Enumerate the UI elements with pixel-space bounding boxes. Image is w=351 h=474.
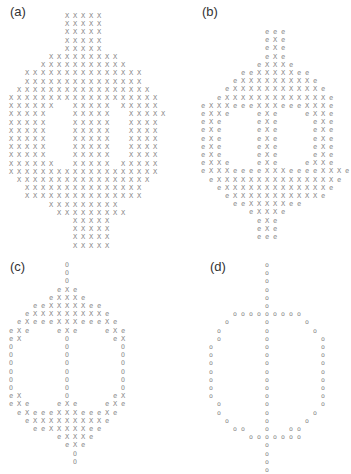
grid-cell-x: X	[55, 94, 63, 102]
grid-cell-x: X	[87, 151, 95, 159]
grid-cell-x: X	[63, 294, 71, 302]
grid-cell-e: e	[335, 176, 343, 184]
grid-cell-e: e	[255, 126, 263, 134]
grid-cell-x: X	[23, 86, 31, 94]
grid-cell-x: X	[79, 94, 87, 102]
grid-cell-x: X	[239, 85, 247, 93]
grid-cell-x: X	[23, 119, 31, 127]
grid-cell-x: X	[71, 168, 79, 176]
grid-cell-x: X	[39, 184, 47, 192]
grid-cell-e: e	[303, 110, 311, 118]
grid-cell-x: X	[63, 86, 71, 94]
grid-cell-x: X	[311, 184, 319, 192]
grid-cell-e: e	[303, 69, 311, 77]
grid-cell-x: X	[15, 110, 23, 118]
grid-cell-x: X	[271, 69, 279, 77]
grid-cell-x: X	[63, 45, 71, 53]
grid-cell-x: X	[143, 119, 151, 127]
grid-cell-o: O	[7, 384, 15, 392]
grid-cell-x: X	[95, 217, 103, 225]
grid-cell-x: X	[47, 53, 55, 61]
grid-cell-x: X	[79, 135, 87, 143]
grid-cell-x: X	[311, 85, 319, 93]
grid-cell-o: O	[63, 384, 71, 392]
grid-cell-x: X	[31, 110, 39, 118]
grid-cell-x: X	[103, 225, 111, 233]
grid-cell-x: X	[71, 233, 79, 241]
grid-cell-x: X	[15, 151, 23, 159]
grid-cell-x: X	[47, 69, 55, 77]
grid-cell-x: X	[95, 168, 103, 176]
grid-cell-e: e	[239, 102, 247, 110]
grid-cell-x: X	[103, 102, 111, 110]
grid-cell-x: X	[279, 184, 287, 192]
grid-cell-e: e	[343, 167, 351, 175]
grid-cell-x: X	[319, 143, 327, 151]
grid-cell-x: X	[55, 201, 63, 209]
grid-cell-x: X	[63, 327, 71, 335]
grid-cell-x: X	[79, 302, 87, 310]
grid-cell-x: X	[119, 192, 127, 200]
grid-cell-x: X	[39, 310, 47, 318]
grid-cell-e: e	[7, 335, 15, 343]
grid-cell-x: X	[55, 53, 63, 61]
grid-cell-x: X	[103, 78, 111, 86]
grid-cell-x: X	[135, 184, 143, 192]
grid-cell-x: X	[15, 335, 23, 343]
grid-cell-x: X	[151, 94, 159, 102]
grid-cell-x: X	[143, 151, 151, 159]
grid-cell-x: X	[79, 217, 87, 225]
grid-cell-x: X	[103, 61, 111, 69]
grid-cell-x: X	[79, 433, 87, 441]
grid-cell-x: X	[7, 143, 15, 151]
grid-cell-e: e	[255, 159, 263, 167]
grid-cell-x: X	[119, 209, 127, 217]
grid-cell-x: X	[63, 94, 71, 102]
grid-cell-x: X	[95, 209, 103, 217]
grid-cell-x: X	[111, 400, 119, 408]
grid-cell-x: X	[87, 102, 95, 110]
grid-cell-e: e	[247, 69, 255, 77]
grid-cell-x: X	[47, 168, 55, 176]
grid-cell-x: X	[319, 167, 327, 175]
grid-cell-o: O	[63, 359, 71, 367]
grid-cell-x: X	[71, 192, 79, 200]
grid-cell-x: X	[271, 94, 279, 102]
grid-cell-o: O	[119, 376, 127, 384]
grid-cell-x: X	[207, 118, 215, 126]
grid-cell-x: X	[55, 184, 63, 192]
grid-cell-x: X	[39, 417, 47, 425]
grid-cell-x: X	[111, 184, 119, 192]
grid-cell-x: X	[95, 37, 103, 45]
grid-cell-x: X	[287, 176, 295, 184]
grid-cell-x: X	[207, 167, 215, 175]
grid-cell-o: o	[311, 327, 319, 335]
grid-cell-x: X	[151, 160, 159, 168]
grid-cell-x: X	[95, 20, 103, 28]
grid-cell-e: e	[231, 102, 239, 110]
grid-cell-e: e	[295, 167, 303, 175]
grid-cell-x: X	[111, 94, 119, 102]
grid-cell-x: X	[103, 86, 111, 94]
grid-cell-e: e	[327, 126, 335, 134]
grid-cell-o: o	[207, 359, 215, 367]
grid-cell-e: e	[215, 94, 223, 102]
grid-cell-o: o	[271, 433, 279, 441]
grid-cell-x: X	[135, 160, 143, 168]
grid-cell-x: X	[151, 102, 159, 110]
grid-cell-x: X	[47, 61, 55, 69]
grid-cell-x: X	[39, 110, 47, 118]
grid-cell-e: e	[15, 318, 23, 326]
grid-cell-x: X	[127, 135, 135, 143]
grid-cell-x: X	[71, 102, 79, 110]
grid-cell-e: e	[215, 135, 223, 143]
grid-cell-e: e	[279, 102, 287, 110]
grid-cell-x: X	[143, 110, 151, 118]
grid-cell-x: X	[95, 45, 103, 53]
grid-cell-x: X	[263, 118, 271, 126]
grid-cell-e: e	[103, 327, 111, 335]
grid-cell-e: e	[79, 294, 87, 302]
grid-cell-x: X	[303, 102, 311, 110]
grid-cell-x: X	[111, 53, 119, 61]
grid-cell-x: X	[255, 176, 263, 184]
